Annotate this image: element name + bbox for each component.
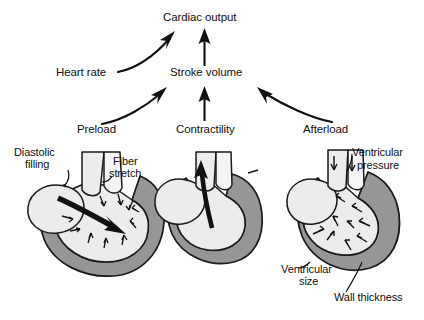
- annotation-ventricular-pressure-line2: pressure: [357, 160, 399, 172]
- annotation-fiber-stretch-line2: stretch: [109, 168, 141, 180]
- contractility-heart-illustration: [155, 152, 262, 264]
- arrow-afterload-to-stroke-volume: [257, 87, 332, 122]
- preload-heart-illustration: [28, 152, 164, 276]
- arrow-heart-rate-to-cardiac-output: [118, 31, 175, 72]
- node-label-contractility: Contractility: [176, 123, 235, 135]
- arrow-preload-to-stroke-volume: [102, 87, 167, 124]
- annotation-fiber-stretch-line1: Fiber: [113, 156, 138, 168]
- arrow-stroke-volume-to-cardiac-output: [199, 28, 211, 66]
- node-label-preload: Preload: [77, 123, 116, 135]
- annotation-ventricular-size-line1: Ventricular: [281, 264, 332, 276]
- annotation-ventricular-pressure-line1: Ventricular: [352, 147, 403, 159]
- cardiac-output-diagram: Cardiac output Heart rate Stroke volume …: [0, 0, 424, 320]
- node-label-cardiac-output: Cardiac output: [163, 11, 236, 23]
- annotation-ventricular-size-line2: size: [299, 276, 318, 288]
- node-label-heart-rate: Heart rate: [56, 66, 106, 78]
- annotation-wall-thickness: Wall thickness: [334, 292, 403, 304]
- diastolic-filling-leader: [64, 170, 69, 186]
- annotation-diastolic-filling-line1: Diastolic: [14, 147, 55, 159]
- annotation-diastolic-filling-line2: filling: [25, 159, 49, 171]
- node-label-stroke-volume: Stroke volume: [170, 66, 242, 78]
- arrow-contractility-to-stroke-volume: [199, 86, 211, 121]
- node-label-afterload: Afterload: [303, 123, 348, 135]
